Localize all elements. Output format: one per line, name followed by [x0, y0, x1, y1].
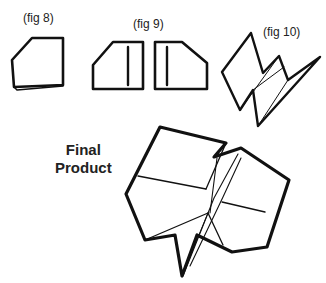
fig10-shape	[222, 33, 320, 126]
fig8-shape	[12, 38, 63, 90]
fig9-left-shape	[93, 42, 143, 89]
diagram-canvas	[0, 0, 326, 283]
fig9-right-shape	[155, 42, 207, 89]
final-product-shape	[126, 127, 289, 276]
